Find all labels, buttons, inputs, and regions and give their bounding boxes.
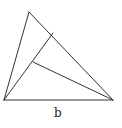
- left-side: [4, 12, 29, 100]
- right-side: [29, 12, 113, 100]
- triangle-diagram: b: [0, 0, 122, 128]
- side-label-b: b: [54, 106, 62, 120]
- cevian-to-bottom-right: [33, 62, 113, 100]
- cevian-from-bottom-left: [4, 33, 53, 100]
